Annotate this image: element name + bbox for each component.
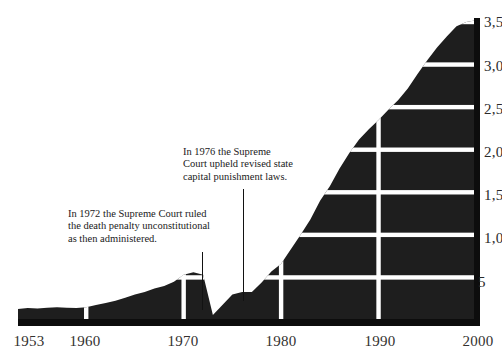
y-axis-label-1500: 1,5 xyxy=(484,187,502,204)
gridline-x-1990 xyxy=(376,0,380,320)
gridline-y-3000 xyxy=(18,62,480,66)
gridline-y-3500 xyxy=(18,20,480,24)
gridline-y-1500 xyxy=(18,190,480,194)
y-axis-label-2000: 2,0 xyxy=(484,144,502,161)
y-axis-label-500: 5 xyxy=(478,274,486,291)
gridline-y-500 xyxy=(18,275,480,279)
y-axis-label-2500: 2,5 xyxy=(484,101,502,118)
gridline-x-1960 xyxy=(84,0,88,320)
x-axis-label-1980: 1980 xyxy=(265,333,296,350)
x-axis-rule xyxy=(18,319,480,326)
y-axis-label-3000: 3,0 xyxy=(484,58,502,75)
annotation-1976-leader-line xyxy=(243,189,244,301)
x-axis-label-1960: 1960 xyxy=(69,333,100,350)
x-axis-label-1970: 1970 xyxy=(167,333,198,350)
x-axis-label-2000: 2000 xyxy=(462,333,493,350)
annotation-1972: In 1972 the Supreme Court ruled the deat… xyxy=(68,208,228,245)
y-axis-label-3500: 3,5 xyxy=(484,14,502,31)
annotation-1976: In 1976 the Supreme Court upheld revised… xyxy=(183,146,318,183)
x-axis-label-1990: 1990 xyxy=(364,333,395,350)
chart-page: 3,53,02,52,01,51,05 19531960197019801990… xyxy=(0,0,502,364)
y-axis-label-1000: 1,0 xyxy=(484,230,502,247)
x-axis-label-1953: 1953 xyxy=(13,333,44,350)
gridline-y-2500 xyxy=(18,105,480,109)
annotation-1972-leader-line xyxy=(202,252,203,310)
